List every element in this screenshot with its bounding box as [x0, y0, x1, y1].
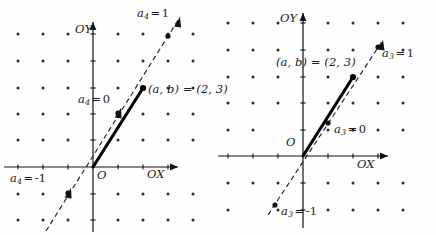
annotation-a4-eq-0: a4=0: [78, 94, 110, 107]
axis-label-ox-left: OX: [147, 169, 165, 181]
panel-right-a3: OY OX O (a, b) = (2, 3) a3=1 a3=0 a3=-1: [218, 0, 436, 235]
y-axis-right: [300, 13, 307, 228]
axis-label-oy-left: OY: [75, 24, 92, 36]
vector-right: [303, 74, 356, 156]
two-panel-lattice-figure: OY OX O a4=1 a4=0 a4=-1 (a, b) = (2, 3): [0, 0, 436, 235]
point-label-left: (a, b) = (2, 3): [148, 84, 228, 96]
annotation-a4-eq-minus-1: a4=-1: [10, 173, 46, 186]
lattice-dots-right: [227, 22, 405, 212]
origin-label-right: O: [286, 137, 296, 149]
left-panel-canvas: [0, 0, 218, 235]
y-axis-left: [90, 22, 97, 232]
panel-left-a4: OY OX O a4=1 a4=0 a4=-1 (a, b) = (2, 3): [0, 0, 218, 235]
annotation-a3-eq-minus-1: a3=-1: [281, 206, 317, 219]
dashed-arrow-left: [174, 17, 181, 28]
annotation-a3-eq-1: a3=1: [382, 48, 414, 61]
lattice-dots-left: [17, 33, 195, 222]
point-label-right: (a, b) = (2, 3): [276, 57, 356, 69]
right-panel-canvas: [218, 0, 436, 235]
annotation-a4-eq-1: a4=1: [137, 8, 169, 21]
dashed-line-left: [46, 17, 180, 231]
axis-label-oy-right: OY: [280, 13, 297, 25]
axis-label-ox-right: OX: [357, 159, 375, 171]
origin-label-left: O: [97, 170, 107, 182]
annotation-a3-eq-0: a3=0: [334, 124, 366, 137]
